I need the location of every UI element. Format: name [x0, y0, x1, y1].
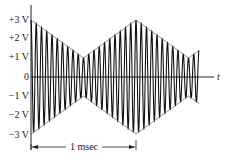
y-tick-label: −2 V [9, 109, 30, 120]
arrowhead-left-icon [32, 145, 38, 149]
am-waveform-figure: +3 V +2 V +1 V 0 −1 V −2 V −3 V t 1 msec [0, 0, 225, 163]
y-tick-label: −3 V [9, 129, 30, 140]
waveform-chart: +3 V +2 V +1 V 0 −1 V −2 V −3 V t 1 msec [0, 0, 225, 163]
span-label: 1 msec [70, 141, 99, 152]
x-axis-label: t [217, 71, 220, 82]
y-tick-label: 0 [24, 71, 29, 82]
lower-envelope [31, 96, 199, 134]
y-tick-label: −1 V [9, 90, 30, 101]
arrowhead-right-icon [129, 145, 135, 149]
y-tick-label: +3 V [9, 14, 30, 25]
am-signal-trace [31, 20, 199, 132]
y-tick-label: +1 V [9, 51, 30, 62]
y-tick-label: +2 V [9, 32, 30, 43]
